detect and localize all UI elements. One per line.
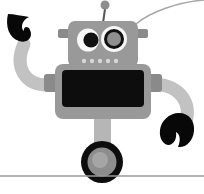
right-eye-lens	[107, 32, 121, 46]
left-eye-pupil	[83, 32, 98, 47]
face-dot-1	[82, 59, 86, 63]
face-dot-2	[90, 59, 94, 63]
face-dot-4	[106, 59, 110, 63]
wheel-hub-highlight	[92, 152, 108, 168]
robot-illustration-canvas	[0, 0, 204, 194]
face-dot-5	[114, 59, 118, 63]
antenna-ball-icon	[101, 1, 110, 10]
face-dot-3	[98, 59, 102, 63]
robot-illustration	[0, 0, 204, 194]
chest-screen	[62, 70, 144, 107]
